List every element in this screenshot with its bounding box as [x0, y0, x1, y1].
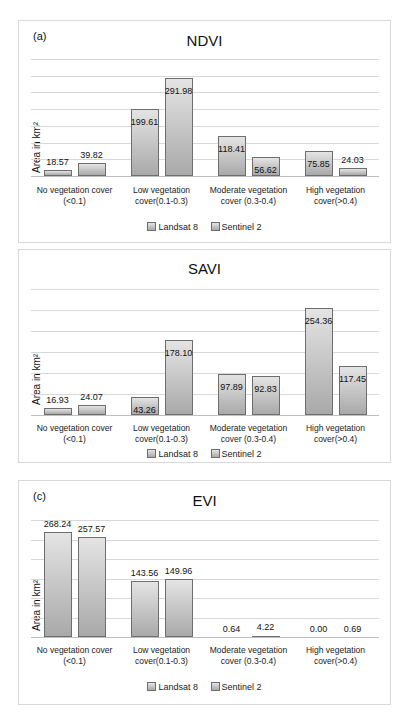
legend-item-sentinel2: Sentinel 2	[211, 449, 262, 459]
data-label: 24.03	[333, 155, 373, 165]
data-label: 199.61	[125, 117, 165, 127]
bar-landsat8	[44, 532, 72, 637]
data-label: 92.83	[246, 384, 286, 394]
gridline	[31, 109, 379, 110]
data-label: 291.98	[159, 86, 199, 96]
bar-sentinel2	[339, 168, 367, 176]
legend-swatch-icon	[211, 222, 220, 231]
legend-item-landsat8: Landsat 8	[147, 449, 198, 459]
bar-landsat8	[218, 136, 246, 176]
bar-landsat8	[44, 170, 72, 176]
gridline	[31, 126, 379, 127]
legend-swatch-icon	[211, 682, 220, 691]
bar-sentinel2	[78, 163, 106, 176]
gridline	[31, 92, 379, 93]
data-label: 178.10	[159, 348, 199, 358]
chart-panel-ndvi: (a) NDVI Area in km² 18.5739.82199.61291…	[18, 20, 391, 243]
data-label: 254.36	[299, 316, 339, 326]
x-axis-category-label: High vegetationcover(>0.4)	[292, 423, 380, 445]
legend-label: Sentinel 2	[222, 222, 262, 232]
x-axis-line	[31, 176, 379, 177]
x-axis-category-label: Moderate vegetationcover (0.3-0.4)	[205, 423, 293, 445]
x-axis-category-label: Moderate vegetationcover (0.3-0.4)	[205, 185, 293, 207]
bar-landsat8	[44, 408, 72, 415]
data-label: 39.82	[72, 150, 112, 160]
legend-item-sentinel2: Sentinel 2	[211, 222, 262, 232]
x-axis-category-label: High vegetationcover(>0.4)	[292, 185, 380, 207]
bar-sentinel2	[252, 376, 280, 415]
legend-item-sentinel2: Sentinel 2	[211, 682, 262, 692]
gridline	[31, 289, 379, 290]
plot-area: 16.9324.0743.26178.1097.8992.83254.36117…	[31, 289, 379, 415]
data-label: 118.41	[212, 144, 252, 154]
x-axis-category-label: Low vegetationcover(0.1-0.3)	[118, 645, 206, 667]
bar-sentinel2	[78, 537, 106, 637]
x-axis-category-label: High vegetationcover(>0.4)	[292, 645, 380, 667]
bar-landsat8	[218, 374, 246, 415]
bar-landsat8	[131, 581, 159, 637]
data-label: 56.62	[246, 165, 286, 175]
plot-area: 268.24257.57143.56149.960.644.220.000.69	[31, 520, 379, 637]
legend-label: Landsat 8	[158, 449, 198, 459]
legend-swatch-icon	[147, 222, 156, 231]
x-axis-category-label: No vegetation cover(<0.1)	[31, 423, 119, 445]
legend-label: Sentinel 2	[222, 449, 262, 459]
chart-panel-savi: SAVI Area in km² 16.9324.0743.26178.1097…	[18, 249, 391, 463]
legend: Landsat 8 Sentinel 2	[19, 222, 390, 232]
gridline	[31, 76, 379, 77]
data-label: 24.07	[72, 392, 112, 402]
x-axis-line	[31, 415, 379, 416]
legend: Landsat 8 Sentinel 2	[19, 449, 390, 459]
legend-swatch-icon	[147, 449, 156, 458]
legend-swatch-icon	[147, 682, 156, 691]
legend: Landsat 8 Sentinel 2	[19, 682, 390, 692]
x-axis-line	[31, 637, 379, 638]
legend-label: Landsat 8	[158, 222, 198, 232]
bar-sentinel2	[165, 579, 193, 637]
legend-item-landsat8: Landsat 8	[147, 682, 198, 692]
x-axis-category-label: Low vegetationcover(0.1-0.3)	[118, 185, 206, 207]
chart-title: SAVI	[19, 260, 390, 277]
data-label: 0.69	[333, 624, 373, 634]
legend-label: Sentinel 2	[222, 682, 262, 692]
bar-sentinel2	[252, 636, 280, 637]
gridline	[31, 59, 379, 60]
bar-sentinel2	[78, 405, 106, 415]
chart-title: EVI	[19, 492, 390, 509]
data-label: 257.57	[72, 524, 112, 534]
legend-swatch-icon	[211, 449, 220, 458]
chart-panel-evi: (c) EVI Area in km² 268.24257.57143.5614…	[18, 480, 391, 705]
plot-area: 18.5739.82199.61291.98118.4156.6275.8524…	[31, 59, 379, 176]
data-label: 117.45	[333, 374, 373, 384]
x-axis-category-label: Low vegetationcover(0.1-0.3)	[118, 423, 206, 445]
data-label: 4.22	[246, 622, 286, 632]
gridline	[31, 143, 379, 144]
data-label: 149.96	[159, 566, 199, 576]
legend-label: Landsat 8	[158, 682, 198, 692]
x-axis-category-label: No vegetation cover(<0.1)	[31, 645, 119, 667]
legend-item-landsat8: Landsat 8	[147, 222, 198, 232]
x-axis-category-label: No vegetation cover(<0.1)	[31, 185, 119, 207]
gridline	[31, 520, 379, 521]
data-label: 43.26	[125, 405, 165, 415]
chart-title: NDVI	[19, 32, 390, 49]
x-axis-category-label: Moderate vegetationcover (0.3-0.4)	[205, 645, 293, 667]
